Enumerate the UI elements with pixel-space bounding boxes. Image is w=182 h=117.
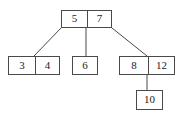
node-cell-left-key-2: 4 <box>35 57 59 74</box>
node-cell-bottom-key-1: 10 <box>137 91 162 109</box>
edge-root-to-right-leaf <box>112 28 147 56</box>
tree-node-right-leaf: 8 12 <box>119 56 175 75</box>
node-cell-right-key-1: 8 <box>120 57 148 74</box>
tree-node-bottom-leaf: 10 <box>136 90 163 110</box>
node-cell-left-key-1: 3 <box>9 57 35 74</box>
node-cell-middle-key-1: 6 <box>73 57 97 74</box>
node-cell-right-key-2: 12 <box>148 57 174 74</box>
tree-node-root: 5 7 <box>61 10 112 28</box>
btree-diagram: 5 7 3 4 6 8 12 10 <box>0 0 182 117</box>
edge-root-to-left-leaf <box>34 28 61 56</box>
node-cell-root-key-2: 7 <box>87 11 111 27</box>
node-cell-root-key-1: 5 <box>62 11 87 27</box>
tree-node-middle-leaf: 6 <box>72 56 98 75</box>
tree-node-left-leaf: 3 4 <box>8 56 60 75</box>
